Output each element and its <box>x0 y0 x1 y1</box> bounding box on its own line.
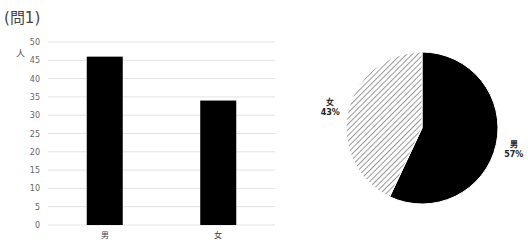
y-tick-label: 40 <box>30 75 40 84</box>
pie-data-label: 男57% <box>504 140 523 159</box>
x-tick-label: 男 <box>101 231 109 240</box>
y-tick-label: 15 <box>30 166 40 175</box>
bar-female <box>200 101 236 225</box>
y-tick-label: 10 <box>30 184 40 193</box>
y-axis-label: 人 <box>16 49 25 59</box>
y-tick-label: 35 <box>30 93 40 102</box>
pie-chart: 男57%女43% <box>300 30 528 252</box>
bar-male <box>87 57 123 225</box>
x-tick-label: 女 <box>214 230 222 240</box>
y-tick-label: 30 <box>30 111 40 120</box>
y-tick-label: 20 <box>30 148 40 157</box>
y-tick-label: 45 <box>30 56 40 65</box>
bar-chart: 人05101520253035404550男女 <box>0 0 290 252</box>
y-tick-label: 25 <box>30 130 40 139</box>
y-tick-label: 50 <box>30 38 40 47</box>
pie-data-label: 女43% <box>321 97 340 117</box>
y-tick-label: 0 <box>35 221 40 230</box>
y-tick-label: 5 <box>35 203 40 212</box>
